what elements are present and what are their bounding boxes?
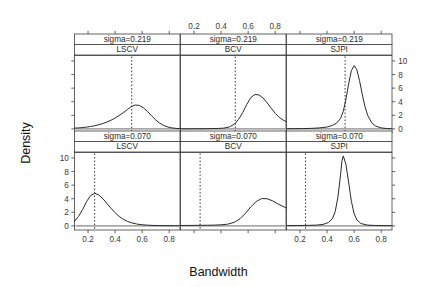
ytick-label-right-1: 2 — [398, 111, 403, 120]
ytick-label-right-2: 4 — [398, 98, 403, 107]
xtick-label-bottom-3-0: 0.2 — [82, 235, 94, 244]
xtick-label-bottom-5-3: 0.8 — [375, 235, 387, 244]
panel-strip-sigma-1: sigma=0.219 — [210, 35, 258, 44]
panel-strip-sigma-2: sigma=0.219 — [316, 35, 364, 44]
xtick-label-bottom-3-3: 0.8 — [163, 235, 175, 244]
xtick-label-top-1-2: 0.6 — [242, 22, 254, 31]
y-axis-title: Density — [19, 121, 33, 163]
xtick-label-bottom-3-1: 0.4 — [109, 235, 121, 244]
ytick-label-right-4: 8 — [398, 71, 403, 80]
ytick-label-right-3: 6 — [398, 84, 403, 93]
ytick-label-left-4: 8 — [64, 168, 69, 177]
xtick-label-bottom-5-1: 0.4 — [321, 235, 333, 244]
panel-frame-4 — [181, 153, 287, 231]
ytick-label-right-0: 0 — [398, 125, 403, 134]
ytick-label-left-5: 10 — [60, 154, 70, 163]
panel-frame-2 — [287, 56, 393, 134]
panel-frame-5 — [287, 153, 393, 231]
panel-strip-method-3: LSCV — [117, 142, 139, 151]
panel-strip-sigma-3: sigma=0.070 — [104, 132, 152, 141]
panel-strip-method-5: SJPI — [331, 142, 348, 151]
panel-density-curve-4 — [181, 199, 287, 226]
panel-density-curve-5 — [287, 156, 393, 226]
panel-strip-method-1: BCV — [225, 45, 242, 54]
panel-frame-3 — [75, 153, 181, 231]
panel-strip-method-0: LSCV — [117, 45, 139, 54]
xtick-label-bottom-5-0: 0.2 — [294, 235, 306, 244]
panel-strip-method-4: BCV — [225, 142, 242, 151]
xtick-label-top-1-1: 0.4 — [215, 22, 227, 31]
panel-density-curve-3 — [75, 193, 181, 226]
ytick-label-left-3: 6 — [64, 181, 69, 190]
panel-strip-sigma-5: sigma=0.070 — [316, 132, 364, 141]
panel-strip-sigma-4: sigma=0.070 — [210, 132, 258, 141]
xtick-label-bottom-5-2: 0.6 — [348, 235, 360, 244]
panel-density-curve-2 — [287, 66, 393, 129]
xtick-label-top-1-0: 0.2 — [188, 22, 200, 31]
density-figure: sigma=0.219LSCVsigma=0.219BCVsigma=0.219… — [0, 0, 437, 287]
ytick-label-right-5: 10 — [398, 57, 408, 66]
xtick-label-bottom-3-2: 0.6 — [136, 235, 148, 244]
panel-frame-1 — [181, 56, 287, 134]
panel-density-curve-1 — [181, 95, 287, 129]
x-axis-title: Bandwidth — [189, 265, 247, 279]
ytick-label-left-2: 4 — [64, 195, 69, 204]
panel-strip-sigma-0: sigma=0.219 — [104, 35, 152, 44]
xtick-label-top-1-3: 0.8 — [269, 22, 281, 31]
panel-strip-method-2: SJPI — [331, 45, 348, 54]
ytick-label-left-0: 0 — [64, 222, 69, 231]
panel-frame-0 — [75, 56, 181, 134]
ytick-label-left-1: 2 — [64, 208, 69, 217]
plot-canvas: sigma=0.219LSCVsigma=0.219BCVsigma=0.219… — [0, 0, 437, 287]
panel-density-curve-0 — [75, 105, 181, 129]
